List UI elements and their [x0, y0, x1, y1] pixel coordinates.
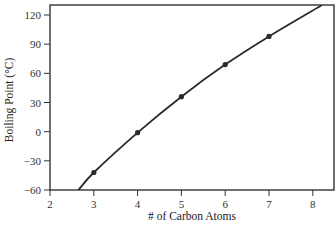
- trend-curve: [79, 5, 322, 190]
- data-point: [266, 34, 271, 39]
- x-tick-label: 3: [91, 198, 97, 210]
- boiling-point-chart: −60−300306090120 2345678 # of Carbon Ato…: [0, 0, 336, 226]
- data-point: [135, 130, 140, 135]
- data-point: [91, 170, 96, 175]
- x-axis-ticks: 2345678: [47, 190, 316, 210]
- y-tick-label: 120: [25, 9, 42, 21]
- y-tick-label: −60: [24, 184, 42, 196]
- data-point: [223, 62, 228, 67]
- x-tick-label: 4: [135, 198, 141, 210]
- y-tick-label: −30: [24, 155, 42, 167]
- x-tick-label: 5: [179, 198, 185, 210]
- y-tick-label: 0: [36, 126, 42, 138]
- y-axis-title: Boiling Point (°C): [3, 58, 16, 143]
- x-axis-title: # of Carbon Atoms: [148, 210, 236, 222]
- data-point-markers: [91, 34, 271, 175]
- x-tick-label: 6: [222, 198, 228, 210]
- y-tick-label: 60: [30, 67, 42, 79]
- data-point: [179, 94, 184, 99]
- y-tick-label: 30: [30, 97, 42, 109]
- plot-frame: [50, 5, 334, 190]
- x-tick-label: 2: [47, 198, 53, 210]
- x-tick-label: 7: [266, 198, 272, 210]
- y-tick-label: 90: [30, 38, 42, 50]
- x-tick-label: 8: [310, 198, 316, 210]
- y-axis-ticks: −60−300306090120: [24, 9, 50, 196]
- plot-border: [50, 5, 334, 190]
